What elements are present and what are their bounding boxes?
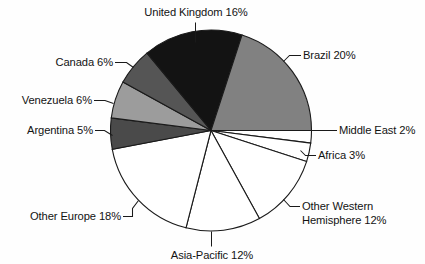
label-asia-pacific: Asia-Pacific 12% [171, 249, 253, 261]
pie-slices-group [110, 30, 311, 231]
label-africa: Africa 3% [318, 149, 365, 161]
pie-chart-figure: United Kingdom 16% Brazil 20% Middle Eas… [0, 0, 425, 264]
label-middle-east: Middle East 2% [339, 124, 415, 136]
label-brazil: Brazil 20% [303, 49, 356, 61]
leader-line-argentina [95, 131, 113, 136]
label-other-western-hemisphere-l2: Hemisphere 12% [302, 214, 387, 226]
leader-line-brazil [284, 56, 302, 62]
label-venezuela: Venezuela 6% [22, 94, 92, 106]
label-argentina: Argentina 5% [27, 124, 93, 136]
label-canada: Canada 6% [55, 56, 113, 68]
label-other-western-hemisphere-l1: Other Western [302, 200, 373, 212]
label-united-kingdom: United Kingdom 16% [144, 6, 247, 18]
leader-line-canada [115, 63, 134, 68]
pie-chart-svg: United Kingdom 16% Brazil 20% Middle Eas… [0, 0, 425, 264]
leader-line-venezuela [94, 101, 114, 104]
leader-line-other-europe [123, 201, 139, 217]
label-other-europe: Other Europe 18% [30, 210, 121, 222]
leader-line-other-western-hemisphere [284, 200, 301, 207]
